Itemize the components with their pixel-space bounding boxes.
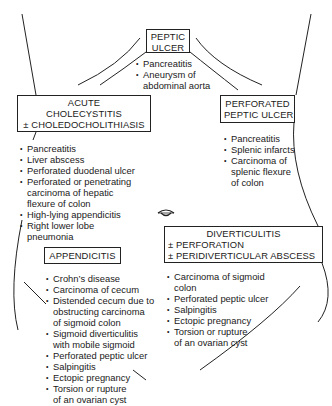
perforated-peptic-ulcer-box: PERFORATED PEPTIC ULCER bbox=[220, 95, 295, 123]
list-item: Carcinoma of splenic flexure of colon bbox=[224, 155, 295, 188]
list-item: High-lying appendicitis bbox=[20, 209, 135, 220]
list-item: Right lower lobe pneumonia bbox=[20, 220, 135, 242]
left-flank-line bbox=[22, 14, 36, 95]
right-flank-line bbox=[296, 14, 311, 95]
list-item: Carcinoma of sigmoid colon bbox=[167, 271, 268, 293]
left-inguinal-line bbox=[24, 282, 46, 304]
list-item: Aneurysm of abdominal aorta bbox=[136, 69, 210, 91]
list-item: Distended cecum due to obstructing carci… bbox=[46, 295, 154, 328]
diverticulitis-title-line-2: ± PERFORATION bbox=[168, 239, 319, 250]
list-item: Liver abscess bbox=[20, 154, 135, 165]
list-item: Salpingitis bbox=[46, 361, 154, 372]
list-item: Splenic infarcts bbox=[224, 144, 295, 155]
list-item: Sigmoid diverticulitis with mobile sigmo… bbox=[46, 328, 154, 350]
appendicitis-box: APPENDICITIS bbox=[44, 247, 121, 264]
acute-cholecystitis-box: ACUTE CHOLECYSTITIS ± CHOLEDOCHOLITHIASI… bbox=[17, 95, 151, 132]
cholecystitis-differentials: Pancreatitis Liver abscess Perforated du… bbox=[20, 143, 135, 242]
list-item: Perforated peptic ulcer bbox=[167, 293, 268, 304]
list-item: Pancreatitis bbox=[224, 133, 295, 144]
right-flank-lower-line bbox=[294, 122, 319, 226]
list-item: Carcinoma of cecum bbox=[46, 284, 154, 295]
cholecystitis-title-line-2: CHOLECYSTITIS bbox=[21, 108, 147, 119]
peptic-ulcer-box: PEPTIC ULCER bbox=[146, 29, 190, 53]
diverticulitis-differentials: Carcinoma of sigmoid colon Perforated pe… bbox=[167, 271, 268, 348]
list-item: Pancreatitis bbox=[136, 58, 210, 69]
list-item: Torsion or rupture of an ovarian cyst bbox=[167, 326, 268, 348]
list-item: Ectopic pregnancy bbox=[167, 315, 268, 326]
diverticulitis-box: DIVERTICULITIS ± PERFORATION ± PERIDIVER… bbox=[164, 226, 323, 263]
appendicitis-differentials: Crohn’s disease Carcinoma of cecum Diste… bbox=[46, 273, 154, 405]
list-item: Perforated duodenal ulcer bbox=[20, 165, 135, 176]
peptic-ulcer-title-line-2: ULCER bbox=[150, 42, 186, 53]
cholecystitis-title-line-1: ACUTE bbox=[21, 97, 147, 108]
list-item: Perforated or penetrating carcinoma of h… bbox=[20, 176, 135, 209]
list-item: Salpingitis bbox=[167, 304, 268, 315]
appendicitis-title: APPENDICITIS bbox=[48, 250, 117, 261]
list-item: Perforated peptic ulcer bbox=[46, 350, 154, 361]
peptic-ulcer-differentials: Pancreatitis Aneurysm of abdominal aorta bbox=[136, 58, 210, 91]
peptic-ulcer-title-line-1: PEPTIC bbox=[150, 31, 186, 42]
list-item: Torsion or rupture of an ovarian cyst bbox=[46, 383, 154, 405]
list-item: Ectopic pregnancy bbox=[46, 372, 154, 383]
perforated-title-line-1: PERFORATED bbox=[224, 98, 291, 109]
umbilicus-icon bbox=[157, 208, 175, 218]
cholecystitis-title-line-3: ± CHOLEDOCHOLITHIASIS bbox=[21, 119, 147, 130]
right-hip-line bbox=[318, 263, 328, 322]
perforated-title-line-2: PEPTIC ULCER bbox=[224, 109, 291, 120]
list-item: Pancreatitis bbox=[20, 143, 135, 154]
left-flank-lower-line bbox=[33, 132, 36, 140]
diverticulitis-title-line-1: DIVERTICULITIS bbox=[168, 228, 319, 239]
diverticulitis-title-line-3: ± PERIDIVERTICULAR ABSCESS bbox=[168, 250, 319, 261]
left-costal-arc-outer bbox=[78, 38, 140, 85]
perforated-peptic-ulcer-differentials: Pancreatitis Splenic infarcts Carcinoma … bbox=[224, 133, 295, 188]
list-item: Crohn’s disease bbox=[46, 273, 154, 284]
